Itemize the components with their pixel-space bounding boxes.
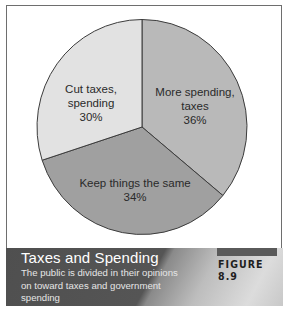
slice-label-line: spending: [68, 97, 115, 109]
slice-value: 36%: [183, 114, 206, 126]
slice-value: 34%: [123, 191, 146, 203]
caption-description: The public is divided in their opinions …: [21, 267, 181, 305]
pie-chart: More spending, taxes 36% Keep things the…: [0, 0, 287, 250]
figure-label-bar: [217, 248, 277, 256]
slice-label-line: taxes: [181, 100, 209, 112]
slice-value: 30%: [79, 111, 102, 123]
slice-label-line: Keep things the same: [79, 177, 190, 189]
figure-caption: Taxes and Spending The public is divided…: [6, 248, 283, 306]
figure-number: FIGURE 8.9: [218, 258, 277, 282]
caption-title: Taxes and Spending: [21, 249, 159, 266]
slice-label-line: More spending,: [155, 86, 234, 98]
slice-label-line: Cut taxes,: [65, 83, 117, 95]
